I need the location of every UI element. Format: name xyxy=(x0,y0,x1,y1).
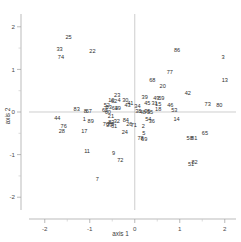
data-point-label: 81 xyxy=(191,135,197,141)
data-point-label: 80 xyxy=(216,102,222,108)
x-axis-ticks: -2-1012 xyxy=(42,219,227,232)
data-point-label: 18 xyxy=(155,106,161,112)
data-point-label: 59 xyxy=(158,95,164,101)
data-point-label: 25 xyxy=(65,34,71,40)
data-point-label: 22 xyxy=(89,48,95,54)
y-axis-ticks: -2-1012 xyxy=(9,23,21,200)
data-point-label: 74 xyxy=(58,54,64,60)
data-point-label: 67 xyxy=(86,108,92,114)
data-point-label: 68 xyxy=(149,77,155,83)
data-point-label: 61 xyxy=(111,123,117,129)
data-point-label: 7 xyxy=(96,176,99,182)
data-point-label: 3 xyxy=(221,54,224,60)
data-point-label: 24 xyxy=(122,129,128,135)
data-point-label: 42 xyxy=(185,90,191,96)
data-point-label: 71 xyxy=(131,122,137,128)
data-point-label: 73 xyxy=(205,101,211,107)
data-point-label: 43 xyxy=(124,102,130,108)
data-point-label: 1 xyxy=(83,116,86,122)
y-tick-label: 1 xyxy=(12,66,16,73)
data-point-label: 54 xyxy=(145,116,151,122)
x-axis-title: axis 1 xyxy=(112,230,129,237)
data-point-label: 19 xyxy=(115,105,121,111)
x-tick-label: 0 xyxy=(133,225,137,232)
data-point-label: 69 xyxy=(141,136,147,142)
zero-axis-lines xyxy=(29,14,236,210)
data-point-label: 9 xyxy=(112,150,115,156)
data-point-label: 45 xyxy=(144,100,150,106)
data-point-labels: 2533742286377136820422339495910624304145… xyxy=(54,34,228,182)
scatter-plot-figure: -2-1012 -2-1012 253374228637713682042233… xyxy=(0,0,241,242)
data-point-label: 86 xyxy=(174,47,180,53)
data-point-label: 2 xyxy=(142,123,145,129)
data-point-label: 14 xyxy=(173,116,179,122)
y-tick-label: 0 xyxy=(12,108,16,115)
y-tick-label: -1 xyxy=(9,151,15,158)
x-tick-label: 2 xyxy=(223,225,227,232)
data-point-label: 65 xyxy=(202,130,208,136)
data-point-label: 53 xyxy=(171,107,177,113)
data-point-label: 28 xyxy=(59,128,65,134)
data-point-label: 13 xyxy=(222,77,228,83)
data-point-label: 83 xyxy=(74,106,80,112)
data-point-label: 44 xyxy=(54,115,60,121)
y-tick-label: 2 xyxy=(12,23,16,30)
x-tick-label: -2 xyxy=(42,225,48,232)
data-point-label: 89 xyxy=(88,118,94,124)
x-tick-label: -1 xyxy=(87,225,93,232)
y-axis-title: axis 2 xyxy=(4,107,11,124)
data-point-label: 33 xyxy=(56,46,62,52)
data-point-label: 72 xyxy=(117,157,123,163)
data-point-label: 17 xyxy=(81,128,87,134)
scatter-plot-canvas: -2-1012 -2-1012 253374228637713682042233… xyxy=(0,0,241,242)
data-point-label: 11 xyxy=(84,148,90,154)
x-tick-label: 1 xyxy=(178,225,182,232)
data-point-label: 77 xyxy=(167,69,173,75)
data-point-label: 35 xyxy=(144,108,150,114)
data-point-label: 82 xyxy=(191,159,197,165)
y-tick-label: -2 xyxy=(9,193,15,200)
data-point-label: 20 xyxy=(160,83,166,89)
data-point-label: 4 xyxy=(117,97,120,103)
data-point-label: 62 xyxy=(111,98,117,104)
